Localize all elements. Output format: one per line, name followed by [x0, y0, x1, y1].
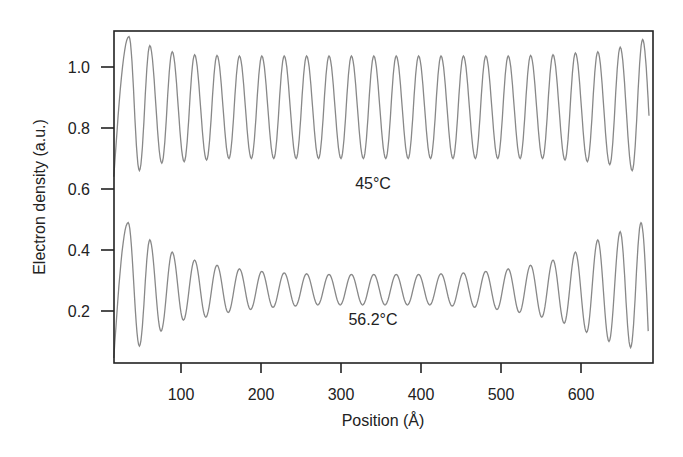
x-tick-label: 400 [408, 386, 435, 403]
y-tick-label: 1.0 [68, 59, 90, 76]
x-tick-label: 200 [248, 386, 275, 403]
x-tick-label: 100 [168, 386, 195, 403]
y-tick-label: 0.6 [68, 181, 90, 198]
plot-curves [114, 37, 649, 359]
annotation-45c: 45°C [355, 175, 391, 192]
curve-45c [114, 37, 649, 177]
x-axis-label: Position (Å) [342, 411, 425, 429]
curve-56-2c [114, 223, 648, 358]
x-tick-label: 600 [568, 386, 595, 403]
x-tick-label: 500 [488, 386, 515, 403]
y-tick-label: 0.4 [68, 242, 90, 259]
y-axis-ticks: 0.20.40.60.81.0 [68, 59, 114, 320]
y-axis-label: Electron density (a.u.) [31, 119, 48, 275]
electron-density-chart: 100200300400500600 0.20.40.60.81.0 Posit… [0, 0, 683, 457]
annotation-56-2c: 56.2°C [348, 311, 397, 328]
y-tick-label: 0.2 [68, 303, 90, 320]
y-tick-label: 0.8 [68, 120, 90, 137]
x-tick-label: 300 [328, 386, 355, 403]
x-axis-ticks: 100200300400500600 [168, 363, 595, 403]
